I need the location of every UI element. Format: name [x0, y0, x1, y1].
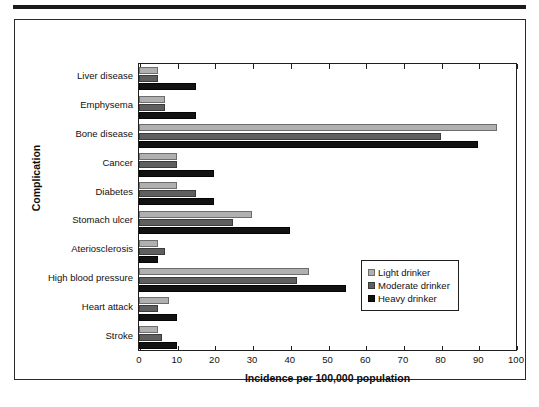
x-axis-tick-bottom — [442, 346, 443, 350]
x-axis-tick-label: 20 — [209, 354, 220, 365]
top-horizontal-rule — [13, 5, 526, 9]
bar — [139, 305, 158, 312]
bar — [139, 112, 196, 119]
bar — [139, 161, 177, 168]
bar — [139, 342, 177, 349]
legend-label: Light drinker — [378, 267, 430, 278]
x-axis-tick-top — [253, 64, 254, 69]
x-axis-title: Incidence per 100,000 population — [138, 372, 517, 384]
x-axis-tick-label: 90 — [473, 354, 484, 365]
y-axis-category-label: Stroke — [106, 331, 133, 341]
figure-frame: Complication Liver diseaseEmphysemaBone … — [14, 19, 526, 380]
bar — [139, 314, 177, 321]
bar — [139, 285, 346, 292]
legend-item: Heavy drinker — [368, 292, 450, 305]
legend-item: Moderate drinker — [368, 279, 450, 292]
bar — [139, 67, 158, 74]
bar — [139, 133, 441, 140]
bar — [139, 326, 158, 333]
x-axis-tick-top — [329, 64, 330, 69]
x-axis-tick-top — [517, 64, 518, 69]
y-axis-category-label: Heart attack — [82, 302, 133, 312]
x-axis-tick-labels: 0102030405060708090100 — [138, 354, 517, 368]
legend-label: Moderate drinker — [378, 280, 450, 291]
legend-swatch-icon — [368, 269, 375, 276]
bar — [139, 75, 158, 82]
chart-legend: Light drinkerModerate drinkerHeavy drink… — [361, 260, 459, 311]
bar — [139, 198, 214, 205]
bar — [139, 96, 165, 103]
bar — [139, 124, 497, 131]
bar — [139, 297, 169, 304]
x-axis-tick-bottom — [366, 346, 367, 350]
x-axis-tick-bottom — [329, 346, 330, 350]
x-axis-tick-top — [442, 64, 443, 69]
x-axis-tick-bottom — [479, 346, 480, 350]
y-axis-category-label: Bone disease — [75, 129, 133, 139]
bar — [139, 170, 214, 177]
x-axis-tick-top — [366, 64, 367, 69]
y-axis-category-label: Cancer — [102, 158, 133, 168]
bar — [139, 248, 165, 255]
bar — [139, 182, 177, 189]
x-axis-tick-top — [479, 64, 480, 69]
x-axis-tick-label: 50 — [322, 354, 333, 365]
bar — [139, 227, 290, 234]
x-axis-tick-bottom — [253, 346, 254, 350]
bar — [139, 256, 158, 263]
x-axis-tick-label: 10 — [171, 354, 182, 365]
bar — [139, 141, 478, 148]
x-axis-tick-bottom — [291, 346, 292, 350]
bar — [139, 104, 165, 111]
y-axis-category-label: Ateriosclerosis — [71, 244, 133, 254]
x-axis-tick-top — [215, 64, 216, 69]
x-axis-tick-top — [404, 64, 405, 69]
legend-label: Heavy drinker — [378, 293, 437, 304]
x-axis-tick-bottom — [215, 346, 216, 350]
legend-item: Light drinker — [368, 266, 450, 279]
legend-swatch-icon — [368, 282, 375, 289]
x-axis-tick-bottom — [178, 346, 179, 350]
x-axis-tick-bottom — [517, 346, 518, 350]
x-axis-tick-label: 70 — [398, 354, 409, 365]
figure-caption-strip — [14, 392, 526, 407]
y-axis-category-label: Liver disease — [77, 71, 133, 81]
bar — [139, 334, 162, 341]
y-axis-category-label: High blood pressure — [48, 273, 133, 283]
x-axis-tick-label: 100 — [508, 354, 524, 365]
bar — [139, 153, 177, 160]
bar — [139, 219, 233, 226]
bar — [139, 240, 158, 247]
bar — [139, 83, 196, 90]
x-axis-tick-label: 80 — [435, 354, 446, 365]
plot-area: Light drinkerModerate drinkerHeavy drink… — [138, 63, 517, 351]
x-axis-tick-bottom — [404, 346, 405, 350]
x-axis-tick-label: 0 — [136, 354, 141, 365]
y-axis-category-label: Stomach ulcer — [72, 215, 133, 225]
x-axis-tick-top — [178, 64, 179, 69]
bar — [139, 190, 196, 197]
bar — [139, 211, 252, 218]
y-axis-category-label: Emphysema — [80, 100, 133, 110]
y-axis-category-labels: Liver diseaseEmphysemaBone diseaseCancer… — [15, 63, 133, 351]
x-axis-tick-top — [291, 64, 292, 69]
y-axis-category-label: Diabetes — [96, 187, 134, 197]
x-axis-tick-label: 30 — [247, 354, 258, 365]
legend-swatch-icon — [368, 295, 375, 302]
bar — [139, 277, 297, 284]
x-axis-tick-label: 40 — [285, 354, 296, 365]
x-axis-tick-label: 60 — [360, 354, 371, 365]
bar — [139, 268, 309, 275]
